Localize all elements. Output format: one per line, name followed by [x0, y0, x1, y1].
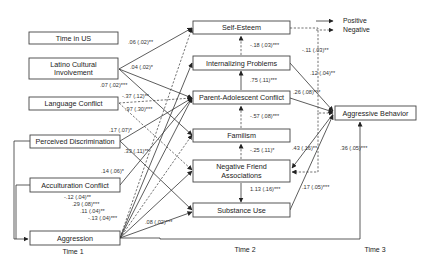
svg-text:Substance Use: Substance Use	[217, 206, 266, 215]
svg-text:1.13 (.16)***: 1.13 (.16)***	[250, 186, 281, 192]
svg-text:.36 (.05)***: .36 (.05)***	[340, 145, 368, 151]
svg-text:.29 (.08)***: .29 (.08)***	[72, 201, 100, 207]
time2-label: Time 2	[234, 246, 255, 253]
svg-text:.04 (.02)*: .04 (.02)*	[130, 64, 154, 70]
legend-positive-label: Positive	[343, 17, 367, 24]
time3-label: Time 3	[364, 246, 385, 253]
svg-text:.97 (.30)***: .97 (.30)***	[125, 106, 153, 112]
svg-text:.11 (.04)**: .11 (.04)**	[80, 208, 106, 214]
svg-text:Aggressive Behavior: Aggressive Behavior	[343, 109, 410, 118]
svg-text:-.25 (.11)*: -.25 (.11)*	[250, 147, 275, 153]
node-language-conflict: Language Conflict	[29, 97, 118, 110]
node-aggressive-behavior: Aggressive Behavior	[335, 106, 416, 120]
svg-text:.43 (.16)**: .43 (.16)**	[292, 145, 318, 151]
node-aggression: Aggression	[30, 231, 120, 245]
node-latino-cultural-involvement: Latino Cultural Involvement	[29, 58, 118, 79]
node-familism: Familism	[193, 129, 290, 142]
time-labels: Time 1 Time 2 Time 3	[62, 246, 385, 255]
svg-text:Language Conflict: Language Conflict	[45, 99, 103, 108]
svg-text:Associations: Associations	[221, 171, 262, 180]
node-self-esteem: Self-Esteem	[193, 21, 290, 34]
svg-text:Involvement: Involvement	[54, 68, 93, 77]
svg-text:.12 (.04)**: .12 (.04)**	[310, 70, 336, 76]
svg-text:-.18 (.03)***: -.18 (.03)***	[250, 42, 280, 48]
svg-text:.33 (.11)**: .33 (.11)**	[124, 148, 150, 154]
svg-text:.17 (.07)*: .17 (.07)*	[109, 127, 133, 133]
node-perceived-discrimination: Perceived Discrimination	[30, 135, 120, 148]
svg-text:.14 (.06)*: .14 (.06)*	[101, 168, 125, 174]
node-time-in-us: Time in US	[29, 32, 118, 44]
svg-text:.17 (.05)***: .17 (.05)***	[302, 184, 330, 190]
svg-text:-.13 (.04)***: -.13 (.04)***	[88, 215, 118, 221]
node-acculturation-conflict: Acculturation Conflict	[30, 178, 120, 192]
legend-negative-label: Negative	[343, 26, 370, 34]
svg-text:Time in US: Time in US	[56, 34, 91, 43]
svg-text:-.37 (.12)**: -.37 (.12)**	[122, 93, 150, 99]
svg-text:-.11 (.03)**: -.11 (.03)**	[302, 47, 329, 53]
node-negative-friend-associations: Negative Friend Associations	[193, 160, 290, 182]
path-diagram: Positive Negative	[0, 0, 430, 268]
svg-text:-.57 (.08)***: -.57 (.08)***	[250, 113, 280, 119]
node-parent-adolescent-conflict: Parent-Adolescent Conflict	[193, 91, 290, 104]
svg-text:Perceived Discrimination: Perceived Discrimination	[35, 137, 114, 146]
svg-text:.08 (.02)***: .08 (.02)***	[145, 219, 173, 225]
edges-time2-time3	[290, 28, 333, 210]
svg-text:Self-Esteem: Self-Esteem	[222, 23, 261, 32]
svg-text:Familism: Familism	[227, 131, 256, 140]
legend: Positive Negative	[316, 17, 370, 34]
node-internalizing-problems: Internalizing Problems	[193, 56, 290, 70]
svg-text:.06 (.02)**: .06 (.02)**	[128, 39, 154, 45]
time1-label: Time 1	[62, 248, 83, 255]
svg-text:Aggression: Aggression	[57, 234, 93, 243]
svg-text:.26 (.08)***: .26 (.08)***	[293, 89, 321, 95]
node-substance-use: Substance Use	[193, 203, 290, 217]
svg-text:.07 (.02)***: .07 (.02)***	[100, 82, 128, 88]
svg-text:Acculturation Conflict: Acculturation Conflict	[41, 181, 109, 190]
svg-text:-.12 (.04)**: -.12 (.04)**	[64, 194, 92, 200]
svg-text:Internalizing Problems: Internalizing Problems	[206, 59, 278, 68]
svg-text:Parent-Adolescent Conflict: Parent-Adolescent Conflict	[199, 93, 284, 102]
svg-text:.75 (.11)***: .75 (.11)***	[250, 77, 278, 83]
